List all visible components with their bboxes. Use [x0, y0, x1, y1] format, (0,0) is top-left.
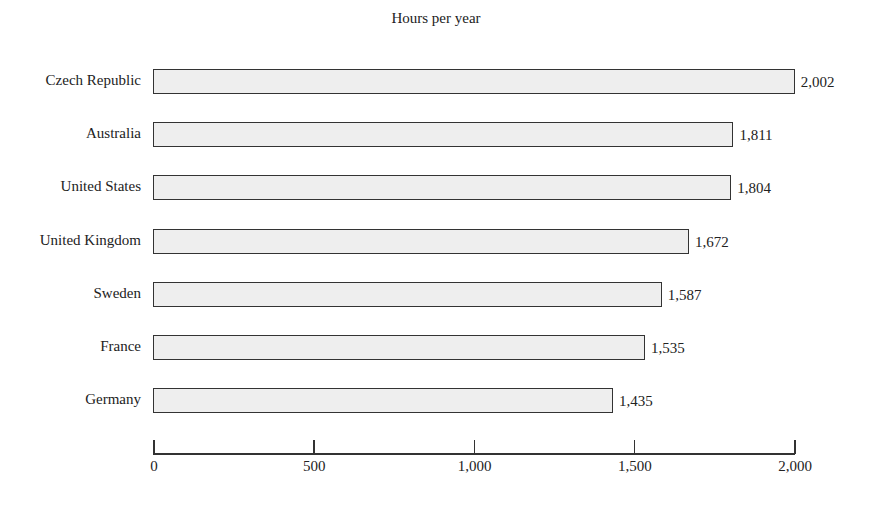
x-tick [153, 440, 155, 454]
value-label: 1,672 [695, 234, 729, 251]
category-label: United Kingdom [40, 232, 141, 249]
x-tick-label: 2,000 [778, 458, 812, 475]
bar [153, 175, 731, 200]
bar [153, 69, 795, 94]
x-tick-label: 1,000 [458, 458, 492, 475]
value-label: 1,535 [651, 340, 685, 357]
chart-title: Hours per year [0, 10, 872, 27]
bar [153, 282, 662, 307]
x-tick [474, 440, 476, 454]
x-tick [794, 440, 796, 454]
x-tick-label: 500 [303, 458, 326, 475]
x-tick-label: 0 [150, 458, 158, 475]
category-label: Sweden [94, 285, 142, 302]
bar [153, 388, 613, 413]
category-label: Germany [85, 391, 141, 408]
value-label: 1,435 [619, 393, 653, 410]
value-label: 1,804 [737, 180, 771, 197]
category-label: Czech Republic [46, 72, 141, 89]
category-label: Australia [86, 125, 141, 142]
x-tick-label: 1,500 [618, 458, 652, 475]
value-label: 1,811 [739, 127, 772, 144]
bar [153, 229, 689, 254]
bar [153, 335, 645, 360]
value-label: 2,002 [801, 74, 835, 91]
value-label: 1,587 [668, 287, 702, 304]
category-label: France [100, 338, 141, 355]
bar [153, 122, 733, 147]
category-label: United States [61, 178, 141, 195]
x-tick [634, 440, 636, 454]
bar-chart: Hours per year Czech Republic2,002Austra… [0, 0, 872, 509]
x-tick [313, 440, 315, 454]
